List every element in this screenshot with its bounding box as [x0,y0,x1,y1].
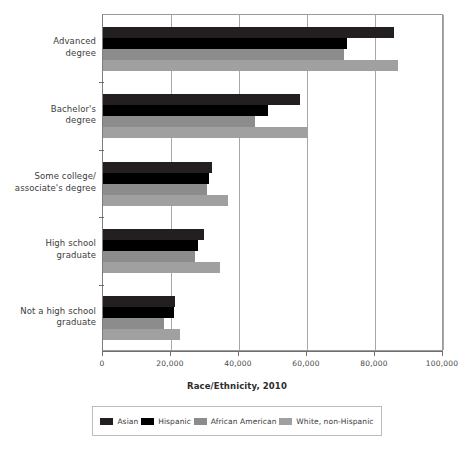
x-axis-tick [170,351,171,356]
bar-fill [103,296,175,307]
bar-fill [103,127,308,138]
legend-item: Asian [100,417,138,426]
bar [103,240,198,251]
legend-swatch [141,418,154,425]
bar [103,38,347,49]
x-axis-title: Race/Ethnicity, 2010 [0,381,474,391]
legend-item: Hispanic [141,417,191,426]
legend-swatch [100,418,113,425]
y-axis-label-line: graduate [0,317,96,329]
y-axis-tick [99,150,104,151]
y-axis-tick [99,217,104,218]
x-axis-tick [306,351,307,356]
legend-swatch [279,418,292,425]
bar-fill [103,229,204,240]
bar-fill [103,318,164,329]
bar-fill [103,116,255,127]
bar-fill [103,184,207,195]
bar-fill [103,38,347,49]
bar [103,105,268,116]
bar [103,94,300,105]
y-axis-label-line: associate's degree [0,183,96,195]
bar [103,173,209,184]
bar-fill [103,105,268,116]
legend-label: White, non-Hispanic [296,417,373,426]
y-axis-label-line: High school [0,238,96,250]
bar [103,251,195,262]
x-axis-tick-label: 0 [100,359,105,368]
x-axis-tick [442,351,443,356]
y-axis-label: Not a high schoolgraduate [0,306,96,329]
bar-fill [103,195,228,206]
bar [103,49,344,60]
bar [103,329,180,340]
y-axis-tick [99,285,104,286]
bar-fill [103,240,198,251]
y-axis-label-line: Bachelor's [0,104,96,116]
bar-fill [103,162,212,173]
bar [103,229,204,240]
y-axis-tick [99,82,104,83]
bar [103,262,220,273]
bar [103,162,212,173]
bar [103,116,255,127]
x-axis-tick-label: 60,000 [292,359,319,368]
bar-fill [103,49,344,60]
bar-chart: AdvanceddegreeBachelor'sdegreeSome colle… [0,0,474,452]
bar-fill [103,27,394,38]
bar [103,60,398,71]
x-axis-tick-label: 20,000 [156,359,183,368]
y-axis-label: Bachelor'sdegree [0,104,96,127]
legend-item: White, non-Hispanic [279,417,373,426]
legend-swatch [194,418,207,425]
bar [103,195,228,206]
bar [103,296,175,307]
x-axis-tick-label: 80,000 [360,359,387,368]
bar [103,307,174,318]
bar-fill [103,329,180,340]
legend-label: African American [211,417,277,426]
bar-fill [103,173,209,184]
y-axis-label-line: graduate [0,250,96,262]
bar-fill [103,251,195,262]
legend-label: Hispanic [158,417,191,426]
bar [103,318,164,329]
legend-label: Asian [117,417,138,426]
x-axis-tick [238,351,239,356]
x-axis-tick [374,351,375,356]
bar-fill [103,94,300,105]
bar-fill [103,262,220,273]
x-axis-tick-label: 100,000 [426,359,458,368]
bar [103,127,308,138]
bar [103,184,207,195]
y-axis-label-line: Some college/ [0,171,96,183]
y-axis-label-line: Not a high school [0,306,96,318]
chart-legend: AsianHispanicAfrican AmericanWhite, non-… [92,406,382,436]
y-axis-label: High schoolgraduate [0,238,96,261]
x-axis: 020,00040,00060,00080,000100,000 [102,351,443,352]
y-axis-label-line: degree [0,48,96,60]
y-axis-label-line: degree [0,115,96,127]
y-axis-label: Some college/associate's degree [0,171,96,194]
bar [103,27,394,38]
y-axis-label-line: Advanced [0,36,96,48]
plot-area [102,14,443,351]
legend-item: African American [194,417,277,426]
gridline [443,15,444,350]
y-axis-category-labels: AdvanceddegreeBachelor'sdegreeSome colle… [0,14,96,351]
x-axis-tick [102,351,103,356]
y-axis-label: Advanceddegree [0,36,96,59]
bar-fill [103,307,174,318]
bar-fill [103,60,398,71]
x-axis-tick-label: 40,000 [224,359,251,368]
